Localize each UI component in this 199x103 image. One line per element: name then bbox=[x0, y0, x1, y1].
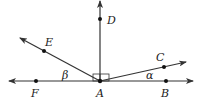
label-c: C bbox=[156, 51, 165, 64]
label-b: B bbox=[160, 87, 169, 100]
label-a: A bbox=[95, 87, 104, 100]
point-c bbox=[162, 65, 166, 69]
point-a bbox=[98, 79, 102, 83]
label-e: E bbox=[44, 36, 53, 49]
angle-diagram: D E C β α F A B bbox=[0, 0, 199, 103]
label-alpha: α bbox=[146, 69, 154, 82]
ray-ae bbox=[20, 38, 100, 81]
ray-ac bbox=[100, 62, 186, 81]
point-f bbox=[34, 79, 38, 83]
label-f: F bbox=[30, 87, 39, 100]
point-e bbox=[42, 49, 46, 53]
label-beta: β bbox=[61, 69, 68, 82]
label-d: D bbox=[106, 14, 116, 27]
point-d bbox=[98, 17, 102, 21]
point-b bbox=[164, 79, 168, 83]
